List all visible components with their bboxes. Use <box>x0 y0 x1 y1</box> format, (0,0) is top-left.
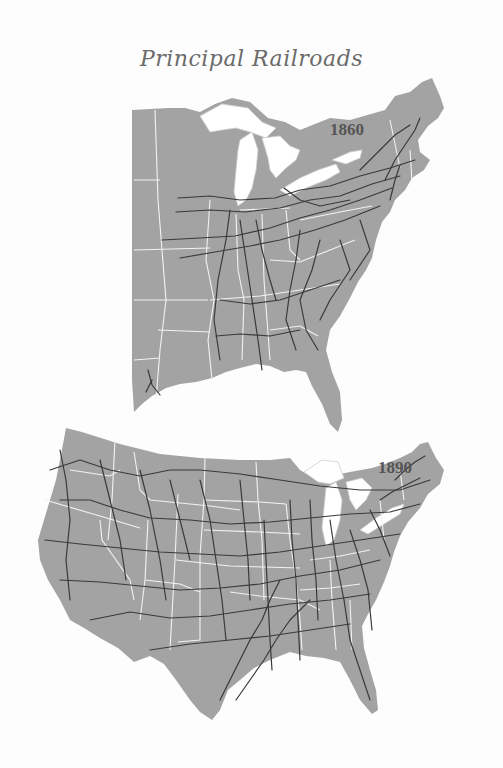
book-page: Principal Railroads <box>0 0 503 768</box>
year-label-1890: 1890 <box>378 458 412 478</box>
map-1890 <box>0 0 503 768</box>
